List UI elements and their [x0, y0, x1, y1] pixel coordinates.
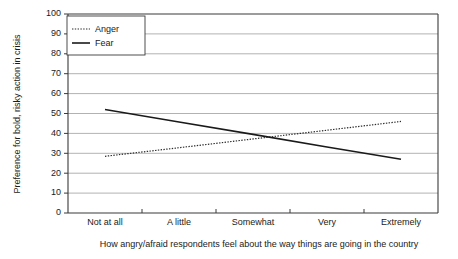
- y-tick-label-100: 100: [46, 8, 61, 18]
- legend-label-fear: Fear: [95, 38, 114, 48]
- x-tick-label-2: Somewhat: [232, 217, 275, 227]
- y-tick-label-10: 10: [51, 187, 61, 197]
- y-tick-label-80: 80: [51, 48, 61, 58]
- y-tick-label-30: 30: [51, 148, 61, 158]
- x-tick-label-1: A little: [167, 217, 191, 227]
- x-axis-title: How angry/afraid respondents feel about …: [100, 239, 419, 249]
- legend-box: [67, 16, 145, 55]
- x-tick-label-4: Extremely: [381, 217, 422, 227]
- y-tick-label-70: 70: [51, 68, 61, 78]
- y-tick-label-90: 90: [51, 28, 61, 38]
- y-tick-label-60: 60: [51, 88, 61, 98]
- y-tick-label-40: 40: [51, 128, 61, 138]
- y-tick-label-0: 0: [56, 207, 61, 217]
- y-axis-title: Preference for bold, risky action in cri…: [12, 34, 22, 194]
- chart-figure: 0102030405060708090100 Not at allA littl…: [0, 0, 458, 259]
- y-tick-label-20: 20: [51, 168, 61, 178]
- legend-label-anger: Anger: [95, 24, 119, 34]
- x-tick-label-3: Very: [318, 217, 337, 227]
- line-chart-canvas: 0102030405060708090100 Not at allA littl…: [0, 0, 458, 259]
- x-tick-label-0: Not at all: [87, 217, 123, 227]
- chart-legend: Anger Fear: [67, 16, 145, 55]
- y-tick-label-50: 50: [51, 108, 61, 118]
